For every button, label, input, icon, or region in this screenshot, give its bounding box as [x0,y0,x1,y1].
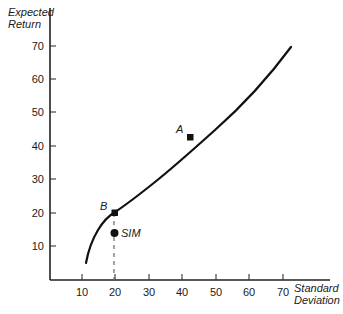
y-tick-label-40: 40 [18,140,44,152]
x-tick-label-20: 20 [102,286,128,298]
x-tick-label-30: 30 [136,286,162,298]
x-axis-ticks [82,274,283,280]
x-axis-title: Standard Deviation [294,282,340,306]
y-tick-label-30: 30 [18,173,44,185]
y-axis-title: Expected Return [8,6,54,30]
marker-point-a [187,134,194,141]
annotation-label-a: A [176,123,183,135]
x-tick-label-50: 50 [203,286,229,298]
x-tick-label-10: 10 [69,286,95,298]
y-axis-title-line1: Expected [8,6,54,18]
y-tick-label-50: 50 [18,106,44,118]
chart-figure: Expected Return Standard Deviation 70 60… [0,0,343,314]
annotation-label-sim: SIM [121,227,141,239]
y-tick-label-70: 70 [18,40,44,52]
marker-point-b [112,210,119,217]
axis-lines [50,8,330,280]
x-tick-label-40: 40 [169,286,195,298]
y-axis-title-line2: Return [8,18,54,30]
y-tick-label-10: 10 [18,240,44,252]
y-axis-ticks [50,46,56,246]
x-axis-title-line1: Standard [294,282,340,294]
y-tick-label-20: 20 [18,207,44,219]
marker-point-sim [111,229,119,237]
x-tick-label-70: 70 [270,286,296,298]
x-axis-title-line2: Deviation [294,294,340,306]
annotation-label-b: B [100,200,107,212]
x-tick-label-60: 60 [236,286,262,298]
plot-canvas [0,0,343,314]
y-tick-label-60: 60 [18,73,44,85]
